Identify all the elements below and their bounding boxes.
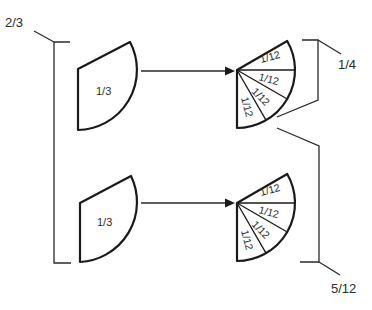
fraction-diagram: 2/3 1/3 1/3 1/12 1/12 1/12 1/12 1/12 1/1…	[0, 0, 372, 310]
label-two-thirds: 2/3	[5, 15, 23, 30]
arrow-head-icon	[225, 199, 235, 208]
label-bottom-third: 1/3	[97, 216, 112, 228]
top-arrow	[141, 67, 235, 76]
label-five-twelfths: 5/12	[331, 281, 356, 296]
label-one-quarter: 1/4	[338, 57, 356, 72]
left-bracket-two-thirds: 2/3	[5, 15, 71, 263]
bottom-fan-twelfths: 1/12 1/12 1/12 1/12	[237, 174, 295, 261]
arrow-head-icon	[225, 67, 235, 76]
top-third-piece: 1/3	[78, 42, 137, 130]
label-top-third: 1/3	[96, 85, 111, 97]
bottom-third-piece: 1/3	[80, 176, 137, 262]
bottom-arrow	[141, 199, 235, 208]
top-fan-twelfths: 1/12 1/12 1/12 1/12	[237, 41, 295, 128]
